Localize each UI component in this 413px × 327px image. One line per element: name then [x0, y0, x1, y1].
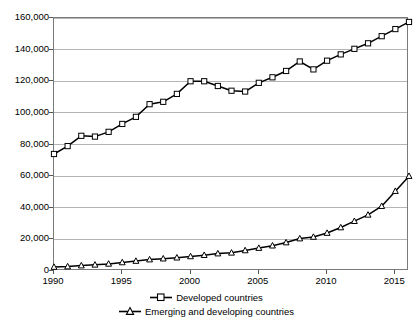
x-axis-tick-label: 1990	[42, 276, 63, 286]
legend-item-developed: Developed countries	[150, 292, 263, 303]
legend-label-emerging: Emerging and developing countries	[145, 306, 294, 317]
x-axis-tick-label: 2015	[384, 276, 405, 286]
legend-item-emerging: Emerging and developing countries	[119, 306, 294, 317]
chart-figure: 020,00040,00060,00080,000100,000120,0001…	[0, 0, 413, 327]
x-axis-tick-label: 2000	[179, 276, 200, 286]
x-axis-tick	[121, 270, 122, 274]
x-axis-tick-label: 1995	[111, 276, 132, 286]
x-axis-tick	[53, 270, 54, 274]
x-axis-tick	[258, 270, 259, 274]
x-axis-tick-label: 2005	[247, 276, 268, 286]
x-axis-tick-label: 2010	[315, 276, 336, 286]
legend-label-developed: Developed countries	[176, 292, 263, 303]
open-triangle-marker-icon	[119, 306, 141, 317]
open-square-marker-icon	[150, 292, 172, 303]
x-axis-tick	[394, 270, 395, 274]
x-axis: 199019952000200520102015	[0, 0, 413, 327]
chart-legend: Developed countries Emerging and develop…	[0, 292, 413, 317]
x-axis-tick	[190, 270, 191, 274]
x-axis-tick	[326, 270, 327, 274]
